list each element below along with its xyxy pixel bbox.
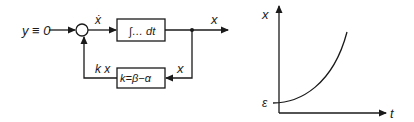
- branch-point: [190, 28, 194, 32]
- feedback-out-label: k x: [95, 62, 111, 76]
- gain-label: k=β−α: [120, 72, 152, 84]
- input-label: y ≡ 0: [21, 23, 51, 38]
- summing-junction: [76, 24, 88, 36]
- epsilon-label: ε: [262, 96, 268, 110]
- growth-plot: [273, 6, 386, 113]
- x-axis-label: t: [390, 106, 395, 121]
- integrator-label: ∫… dt: [128, 25, 156, 38]
- growth-curve: [273, 32, 347, 103]
- xdot-label: ẋ: [94, 13, 102, 27]
- feedback-in-label: x: [176, 61, 184, 76]
- y-axis-label: x: [261, 7, 269, 22]
- feedback-diagram: y ≡ 0 ẋ ∫… dt x x k=β−α k x x t ε: [0, 0, 414, 122]
- output-label: x: [210, 12, 218, 27]
